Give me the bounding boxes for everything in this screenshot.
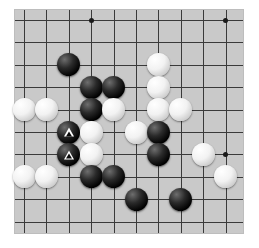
go-board[interactable] xyxy=(15,10,243,233)
white-stone[interactable] xyxy=(147,98,170,121)
board-line-vertical xyxy=(114,10,115,233)
white-stone[interactable] xyxy=(80,121,103,144)
black-stone[interactable] xyxy=(80,98,103,121)
white-stone[interactable] xyxy=(35,98,58,121)
board-line-vertical xyxy=(24,10,25,233)
board-line-horizontal xyxy=(15,20,243,21)
board-line-vertical xyxy=(203,10,204,233)
star-point xyxy=(223,152,228,157)
triangle-marker-icon xyxy=(64,150,74,159)
white-stone[interactable] xyxy=(13,98,36,121)
board-line-vertical xyxy=(226,10,227,233)
go-problem-image xyxy=(0,0,259,248)
black-stone[interactable] xyxy=(147,121,170,144)
triangle-marker-icon xyxy=(64,128,74,137)
black-stone[interactable] xyxy=(80,165,103,188)
board-line-vertical xyxy=(46,10,47,233)
white-stone[interactable] xyxy=(125,121,148,144)
white-stone[interactable] xyxy=(80,143,103,166)
black-stone[interactable] xyxy=(102,76,125,99)
black-stone[interactable] xyxy=(147,143,170,166)
board-line-horizontal xyxy=(15,222,243,223)
black-stone[interactable] xyxy=(169,188,192,211)
star-point xyxy=(223,18,228,23)
black-stone[interactable] xyxy=(57,121,80,144)
board-line-horizontal xyxy=(15,87,243,88)
star-point xyxy=(89,18,94,23)
white-stone[interactable] xyxy=(13,165,36,188)
board-line-horizontal xyxy=(15,42,243,43)
white-stone[interactable] xyxy=(147,76,170,99)
board-line-horizontal xyxy=(15,65,243,66)
black-stone[interactable] xyxy=(125,188,148,211)
white-stone[interactable] xyxy=(192,143,215,166)
black-stone[interactable] xyxy=(80,76,103,99)
